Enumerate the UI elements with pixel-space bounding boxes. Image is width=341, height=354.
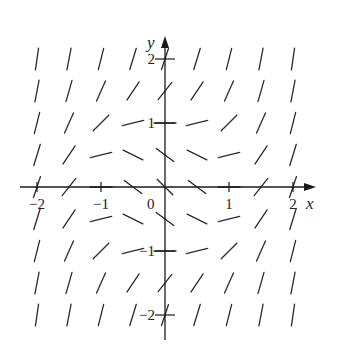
slope-segment: [35, 304, 38, 326]
slope-segment: [255, 210, 267, 228]
slope-segment: [123, 150, 143, 160]
slope-segment: [226, 304, 231, 325]
y-tick-label: 2: [148, 51, 156, 67]
x-tick-label: −1: [93, 196, 109, 212]
slope-segment: [290, 144, 296, 165]
slope-segment: [123, 214, 143, 224]
slope-segment: [226, 48, 231, 69]
slope-segment: [290, 112, 295, 133]
y-tick-label: −1: [139, 243, 155, 259]
y-tick-label: −2: [139, 307, 155, 323]
slope-segment: [258, 272, 264, 293]
slope-segment: [225, 81, 234, 101]
slope-segment: [90, 152, 111, 157]
slope-segment: [63, 210, 75, 228]
slope-segment: [127, 274, 139, 292]
slope-segment: [186, 120, 207, 125]
slope-segment: [130, 48, 136, 69]
x-axis-label: x: [305, 194, 314, 213]
slope-field-plot: −2−11221−1−2 x y 0: [0, 0, 341, 354]
slope-segment: [291, 272, 295, 294]
slope-segment: [65, 241, 74, 261]
slope-segment: [221, 115, 237, 131]
slope-segment: [35, 272, 39, 294]
slope-segment: [66, 272, 72, 293]
slope-segment: [194, 48, 200, 69]
slope-segment: [225, 273, 234, 293]
slope-segment: [259, 304, 263, 326]
slope-segment: [93, 115, 109, 131]
slope-segment: [34, 240, 39, 261]
slope-segment: [291, 80, 295, 102]
slope-segment: [187, 214, 207, 224]
slope-segment: [259, 48, 263, 70]
slope-segment: [290, 240, 295, 261]
x-tick-label: −2: [29, 196, 45, 212]
slope-segment: [67, 48, 71, 70]
slope-segment: [63, 146, 75, 164]
slope-segment: [130, 304, 136, 325]
slope-segment: [255, 146, 267, 164]
slope-segment: [218, 216, 239, 221]
slope-segment: [257, 241, 266, 261]
slope-segment: [34, 144, 40, 165]
slope-segment: [67, 304, 71, 326]
origin-label: 0: [147, 196, 155, 212]
slope-segment: [65, 113, 74, 133]
slope-segment: [191, 274, 203, 292]
slope-segment: [221, 243, 237, 259]
slope-segment: [98, 304, 103, 325]
slope-segment: [35, 48, 38, 70]
slope-segment: [186, 248, 207, 253]
slope-segment: [98, 48, 103, 69]
slope-segment: [97, 81, 106, 101]
slope-segment: [218, 152, 239, 157]
slope-segment: [291, 48, 294, 70]
slope-segment: [66, 80, 72, 101]
x-axis-arrowhead-icon: [304, 183, 316, 191]
slope-segment: [127, 82, 139, 100]
y-axis-arrowhead-icon: [161, 36, 169, 48]
y-tick-label: 1: [148, 115, 156, 131]
slope-segment: [35, 80, 39, 102]
y-axis-label: y: [145, 33, 155, 52]
slope-segment: [93, 243, 109, 259]
x-tick-label: 2: [289, 196, 297, 212]
slope-segment: [258, 80, 264, 101]
slope-segment: [90, 216, 111, 221]
x-tick-label: 1: [225, 196, 233, 212]
slope-segment: [97, 273, 106, 293]
slope-segment: [257, 113, 266, 133]
slope-segment: [291, 304, 294, 326]
slope-segment: [187, 150, 207, 160]
slope-segment: [122, 120, 143, 125]
axes: [20, 36, 316, 340]
slope-segment: [191, 82, 203, 100]
slope-segment: [194, 304, 200, 325]
slope-segment: [34, 112, 39, 133]
